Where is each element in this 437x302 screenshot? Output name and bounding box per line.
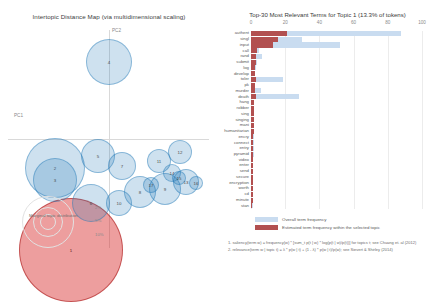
term-label[interactable]: entry <box>239 145 249 150</box>
term-label[interactable]: authent <box>235 30 249 35</box>
term-bar-row[interactable]: entry <box>251 146 422 151</box>
pc1-axis-label: PC1 <box>14 113 23 118</box>
bar-topic-frequency <box>251 77 256 82</box>
term-label[interactable]: input <box>240 42 249 47</box>
intertopic-distance-panel: Intertopic Distance Map (via multidimens… <box>0 0 218 266</box>
term-bar-row[interactable]: rand <box>251 54 422 59</box>
term-bar-row[interactable]: humanitarian <box>251 129 422 134</box>
term-bar-row[interactable]: call <box>251 48 422 53</box>
bar-topic-frequency <box>251 94 256 99</box>
term-bar-row[interactable]: sing <box>251 111 422 116</box>
term-label[interactable]: singing <box>235 117 249 122</box>
term-label[interactable]: submit <box>236 59 249 64</box>
term-bar-row[interactable]: encry <box>251 134 422 139</box>
term-label[interactable]: develop <box>234 71 249 76</box>
term-bar-row[interactable]: submit <box>251 60 422 65</box>
bar-topic-frequency <box>251 31 287 36</box>
bar-topic-frequency <box>251 198 253 203</box>
term-bar-row[interactable]: pyramid <box>251 152 422 157</box>
term-bar-row[interactable]: toler <box>251 77 422 82</box>
term-label[interactable]: enter <box>239 162 249 167</box>
x-axis-tick: 80 <box>385 20 390 25</box>
bar-topic-frequency <box>251 123 254 128</box>
term-bar-row[interactable]: mani <box>251 123 422 128</box>
term-bar-row[interactable]: worth <box>251 186 422 191</box>
term-label[interactable]: mani <box>240 122 249 127</box>
term-label[interactable]: send <box>240 168 249 173</box>
topic-circle-label: 11 <box>148 159 170 164</box>
term-label[interactable]: connect <box>234 140 249 145</box>
term-label[interactable]: pyramid <box>234 151 249 156</box>
term-label[interactable]: call <box>243 48 249 53</box>
term-label[interactable]: humanitarian <box>224 128 249 133</box>
topic-circle-15[interactable]: 15 <box>172 171 186 185</box>
bar-topic-frequency <box>251 175 253 180</box>
topic-circle-10[interactable]: 10 <box>106 190 132 216</box>
term-label[interactable]: hang <box>239 99 249 104</box>
term-bar-row[interactable]: video <box>251 157 422 162</box>
topic-circle-4[interactable]: 4 <box>86 39 132 85</box>
term-bar-row[interactable]: robber <box>251 106 422 111</box>
bar-topic-frequency <box>251 129 254 134</box>
bar-topic-frequency <box>251 157 253 162</box>
term-label[interactable]: cd <box>244 191 249 196</box>
term-bar-row[interactable]: death <box>251 94 422 99</box>
term-label[interactable]: death <box>238 94 249 99</box>
bar-topic-frequency <box>251 65 255 70</box>
bar-topic-frequency <box>251 180 253 185</box>
topic-circle-label: 1 <box>20 248 122 253</box>
term-label[interactable]: rand <box>240 53 249 58</box>
term-bar-row[interactable]: stan <box>251 203 422 208</box>
x-axis-tick: 20 <box>283 20 288 25</box>
term-bar-row[interactable]: cd <box>251 192 422 197</box>
topic-circle-12[interactable]: 12 <box>168 140 192 164</box>
legend-swatch-overall <box>255 217 278 222</box>
term-bar-row[interactable]: singl <box>251 37 422 42</box>
x-axis-tick: 40 <box>317 20 322 25</box>
topic-circle-16[interactable]: 16 <box>189 176 203 190</box>
footnote-saliency: 1. saliency(term w) = frequency(w) * [su… <box>228 240 416 245</box>
term-label[interactable]: encry <box>238 134 249 139</box>
term-label[interactable]: sing <box>241 111 249 116</box>
topic-circle-7[interactable]: 7 <box>108 152 136 180</box>
term-bar-row[interactable]: encryption <box>251 180 422 185</box>
term-label[interactable]: log <box>243 65 249 70</box>
term-label[interactable]: secure <box>236 174 249 179</box>
term-label[interactable]: toler <box>241 76 249 81</box>
intertopic-map-title: Intertopic Distance Map (via multidimens… <box>0 13 218 20</box>
bar-overall-frequency <box>251 94 299 99</box>
term-label[interactable]: murder <box>235 88 249 93</box>
term-label[interactable]: minute <box>236 197 249 202</box>
bar-topic-frequency <box>251 163 253 168</box>
term-bar-row[interactable]: pk <box>251 83 422 88</box>
footnote-relevance: 2. relevance(term w | topic t) = λ * p(w… <box>228 247 393 252</box>
bar-topic-frequency <box>251 192 253 197</box>
term-bar-row[interactable]: send <box>251 169 422 174</box>
bar-topic-frequency <box>251 88 255 93</box>
topic-circle-3[interactable]: 3 <box>33 158 77 202</box>
term-label[interactable]: stan <box>241 203 249 208</box>
term-label[interactable]: singl <box>240 36 249 41</box>
term-bar-row[interactable]: singing <box>251 117 422 122</box>
term-bar-row[interactable]: log <box>251 65 422 70</box>
bar-topic-frequency <box>251 111 254 116</box>
term-label[interactable]: encryption <box>229 180 249 185</box>
term-bar-row[interactable]: secure <box>251 175 422 180</box>
term-label[interactable]: worth <box>238 185 249 190</box>
term-label[interactable]: pk <box>244 82 249 87</box>
term-label[interactable]: video <box>239 157 249 162</box>
term-bar-row[interactable]: input <box>251 42 422 47</box>
term-bar-row[interactable]: enter <box>251 163 422 168</box>
bar-topic-frequency <box>251 152 253 157</box>
term-bar-row[interactable]: hang <box>251 100 422 105</box>
term-bar-row[interactable]: connect <box>251 140 422 145</box>
term-bar-row[interactable]: minute <box>251 198 422 203</box>
term-bar-row[interactable]: develop <box>251 71 422 76</box>
legend-label-overall: Overall term frequency <box>282 217 326 222</box>
term-bar-row[interactable]: authent <box>251 31 422 36</box>
term-bar-chart: 020406080100authentsinglinputcallrandsub… <box>251 31 422 209</box>
bar-topic-frequency <box>251 146 253 151</box>
topic-circle-17[interactable]: 17 <box>143 177 159 193</box>
term-bar-row[interactable]: murder <box>251 88 422 93</box>
term-label[interactable]: robber <box>237 105 249 110</box>
